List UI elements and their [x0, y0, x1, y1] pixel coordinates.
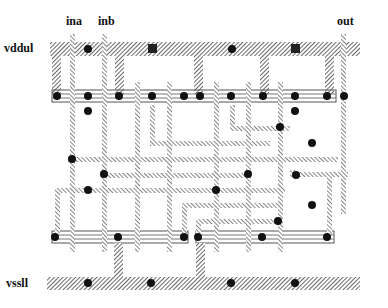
- vdd-drop: [115, 56, 124, 94]
- metal-line: [182, 203, 282, 208]
- vdd-drop: [325, 56, 334, 94]
- contact: [323, 92, 331, 100]
- metal-line: [55, 188, 60, 233]
- poly-out: [341, 34, 346, 214]
- contact: [148, 92, 156, 100]
- contact: [227, 92, 235, 100]
- vss-drop: [196, 243, 205, 278]
- contact: [84, 186, 92, 194]
- vdd-rail: [50, 42, 360, 56]
- contact: [291, 44, 300, 53]
- output-label: out: [337, 14, 354, 28]
- contact: [68, 155, 76, 163]
- contact: [292, 171, 300, 179]
- contact: [291, 92, 299, 100]
- poly-line: [135, 82, 140, 252]
- contact: [196, 92, 204, 100]
- vss-drop: [114, 243, 123, 278]
- poly-line: [278, 82, 283, 252]
- contact: [227, 279, 235, 287]
- contact: [100, 170, 108, 178]
- poly-line: [214, 82, 219, 252]
- vdd-drop: [194, 56, 203, 94]
- input-a-label: ina: [66, 14, 82, 28]
- contact: [84, 92, 92, 100]
- contact: [194, 233, 202, 241]
- metal-line: [150, 141, 270, 146]
- metal-line: [327, 172, 332, 234]
- input-b-label: inb: [98, 14, 115, 28]
- vss-rail: [47, 277, 360, 290]
- poly-ina: [70, 34, 75, 252]
- metal-line: [196, 219, 281, 224]
- metal-line: [68, 157, 338, 162]
- contact: [258, 233, 266, 241]
- metal-lines: [55, 105, 348, 234]
- contact: [180, 92, 188, 100]
- vdd-drop: [260, 56, 269, 94]
- contact: [340, 92, 348, 100]
- contact: [308, 139, 316, 147]
- contact: [276, 123, 284, 131]
- contact: [147, 279, 155, 287]
- contact: [291, 279, 299, 287]
- contact: [323, 233, 331, 241]
- vdd-label: vddul: [4, 41, 34, 55]
- contact: [84, 107, 92, 115]
- contact: [274, 217, 282, 225]
- vdd-drop: [52, 56, 61, 94]
- contact: [308, 201, 316, 209]
- contact: [84, 279, 92, 287]
- contact: [51, 233, 59, 241]
- contact: [180, 233, 188, 241]
- contact: [53, 92, 61, 100]
- contact: [244, 170, 252, 178]
- contact: [114, 233, 122, 241]
- poly-line: [246, 82, 251, 252]
- poly-inb: [102, 34, 107, 252]
- metal-line: [100, 173, 250, 178]
- contact: [115, 92, 123, 100]
- stick-diagram: vddul vssll ina inb out: [0, 0, 388, 308]
- poly-line: [167, 82, 172, 252]
- contact: [259, 92, 267, 100]
- metal-line: [150, 105, 155, 145]
- contact: [228, 45, 236, 53]
- contact: [212, 186, 220, 194]
- contact: [84, 45, 92, 53]
- contact: [148, 44, 157, 53]
- vss-label: vssll: [6, 276, 29, 290]
- contact: [291, 107, 299, 115]
